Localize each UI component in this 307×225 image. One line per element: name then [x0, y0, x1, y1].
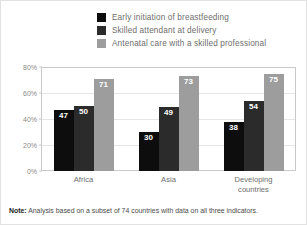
bar[interactable]: 38 [224, 122, 244, 171]
bar-groups: 475071304973385475 [41, 67, 296, 171]
bar[interactable]: 71 [94, 79, 114, 171]
bar-value-label: 71 [94, 80, 114, 89]
x-axis-category-label-line: Developing [211, 175, 296, 185]
bar[interactable]: 54 [244, 101, 264, 171]
x-axis-category-label: Africa [41, 175, 126, 194]
legend-label: Antenatal care with a skilled profession… [112, 39, 266, 48]
y-axis-tick-label: 40% [23, 116, 37, 123]
bar-value-label: 38 [224, 123, 244, 132]
bar-value-label: 54 [244, 102, 264, 111]
bar-value-label: 49 [159, 108, 179, 117]
x-axis-category-label-line: countries [211, 185, 296, 195]
note-label: Note: [9, 207, 27, 214]
x-axis-category-label: Asia [126, 175, 211, 194]
bar-group: 475071 [41, 67, 126, 171]
bar[interactable]: 50 [74, 106, 94, 171]
x-axis-category-label-line: Asia [126, 175, 211, 185]
legend-label: Early initiation of breastfeeding [112, 13, 229, 22]
y-axis-tick-label: 20% [23, 142, 37, 149]
legend-swatch-icon [97, 39, 106, 48]
bar[interactable]: 30 [139, 132, 159, 171]
bar-group: 304973 [126, 67, 211, 171]
bar[interactable]: 75 [264, 74, 284, 172]
legend-swatch-icon [97, 13, 106, 22]
x-axis-category-label: Developingcountries [211, 175, 296, 194]
chart-legend: Early initiation of breastfeeding Skille… [97, 11, 302, 50]
legend-swatch-icon [97, 26, 106, 35]
legend-item-antenatal-care: Antenatal care with a skilled profession… [97, 37, 302, 50]
bar[interactable]: 73 [179, 76, 199, 171]
legend-item-skilled-attendant-at-delivery: Skilled attendant at delivery [97, 24, 302, 37]
bar[interactable]: 49 [159, 107, 179, 171]
bar-value-label: 30 [139, 133, 159, 142]
legend-label: Skilled attendant at delivery [112, 26, 216, 35]
chart-figure: Early initiation of breastfeeding Skille… [0, 0, 307, 225]
bar-group: 385475 [211, 67, 296, 171]
bar[interactable]: 47 [54, 110, 74, 171]
bar-value-label: 47 [54, 111, 74, 120]
bar-value-label: 73 [179, 77, 199, 86]
y-axis-tick-label: 60% [23, 90, 37, 97]
x-axis-category-label-line: Africa [41, 175, 126, 185]
y-axis-tick-label: 0% [27, 168, 37, 175]
note-text: Analysis based on a subset of 74 countri… [27, 207, 258, 214]
x-axis-labels: AfricaAsiaDevelopingcountries [41, 175, 296, 194]
y-axis-tick-label: 80% [23, 64, 37, 71]
bar-value-label: 75 [264, 75, 284, 84]
chart-note: Note: Analysis based on a subset of 74 c… [9, 206, 300, 215]
legend-item-early-initiation-of-breastfeeding: Early initiation of breastfeeding [97, 11, 302, 24]
bar-value-label: 50 [74, 107, 94, 116]
